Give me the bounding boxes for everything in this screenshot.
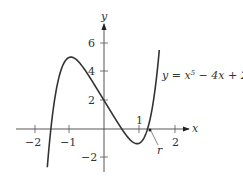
- plot-area: −2 −1 1 2 6 4 2 −2 x y y = x5 − 4x + 2 r: [0, 0, 243, 180]
- root-point: [149, 129, 152, 132]
- root-label: r: [157, 144, 163, 157]
- y-tick-label: 6: [88, 37, 95, 50]
- y-tick-label: 2: [88, 94, 95, 107]
- chart: −2 −1 1 2 6 4 2 −2 x y y = x5 − 4x + 2 r: [0, 0, 243, 180]
- x-tick-label: −2: [25, 136, 41, 149]
- y-tick-label: −2: [81, 151, 97, 164]
- function-curve: [47, 50, 159, 167]
- x-axis-label: x: [192, 122, 199, 135]
- root-pointer: [151, 131, 158, 145]
- x-tick-label: −1: [60, 136, 76, 149]
- x-tick-label: 2: [172, 136, 179, 149]
- y-axis-label: y: [100, 10, 108, 23]
- equation-label: y = x5 − 4x + 2: [161, 69, 243, 82]
- x-tick-label: 1: [136, 114, 143, 127]
